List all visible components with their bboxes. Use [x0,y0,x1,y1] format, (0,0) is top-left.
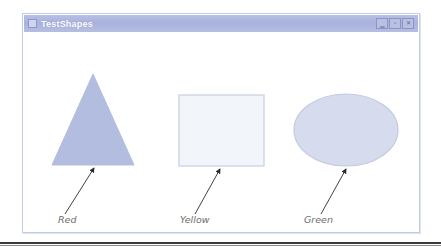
leader-line-yellow [195,169,220,214]
system-menu-icon[interactable] [28,19,37,28]
ellipse-shape[interactable] [294,94,398,166]
window-title-text: TestShapes [41,19,376,29]
maximize-button[interactable]: ▫ [389,18,401,29]
rectangle-shape[interactable] [179,95,264,166]
close-icon: ✕ [403,20,413,26]
window-client-area: Red Yellow Green [24,32,418,231]
application-window: TestShapes ▁ ▫ ✕ [22,13,420,233]
shape-drawing-canvas [24,32,418,231]
label-green: Green [304,214,333,225]
triangle-shape[interactable] [52,74,134,165]
minimize-button[interactable]: ▁ [376,18,388,29]
label-red: Red [58,214,76,225]
window-controls-group: ▁ ▫ ✕ [376,18,414,29]
page-horizontal-rule [0,242,441,244]
close-button[interactable]: ✕ [402,18,414,29]
page-horizontal-rule-shadow [0,245,441,246]
maximize-icon: ▫ [390,20,400,26]
minimize-icon: ▁ [377,21,387,27]
label-yellow: Yellow [180,214,209,225]
window-title-bar[interactable]: TestShapes ▁ ▫ ✕ [24,15,418,32]
leader-line-green [321,169,346,214]
leader-line-red [65,168,94,214]
